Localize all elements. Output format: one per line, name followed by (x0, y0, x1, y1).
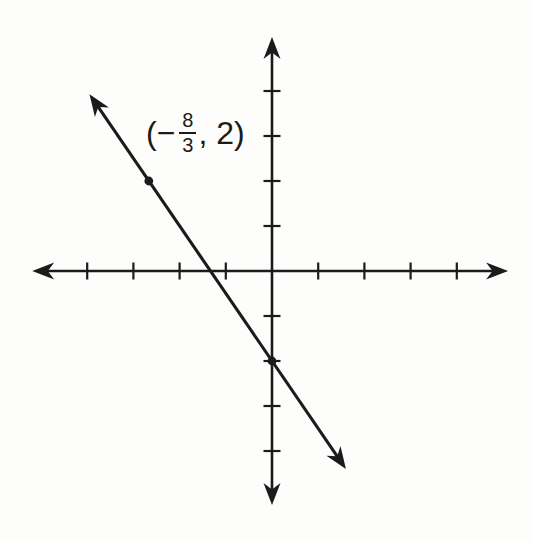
label-comma-y-close: , 2) (198, 117, 244, 149)
graph-line-arrowhead (326, 446, 352, 474)
graph-line (96, 104, 339, 459)
point-coordinates-label: (− 8 3 , 2) (146, 110, 245, 156)
label-open-minus: (− (146, 117, 175, 149)
plotted-point (268, 357, 277, 366)
label-fraction: 8 3 (179, 110, 196, 156)
label-fraction-denominator: 3 (182, 134, 193, 156)
plotted-point (144, 177, 153, 186)
graph-line-arrowhead (82, 89, 108, 117)
label-fraction-numerator: 8 (179, 110, 196, 134)
coordinate-plane (0, 0, 533, 541)
coordinate-plane-figure: (− 8 3 , 2) (0, 0, 533, 541)
